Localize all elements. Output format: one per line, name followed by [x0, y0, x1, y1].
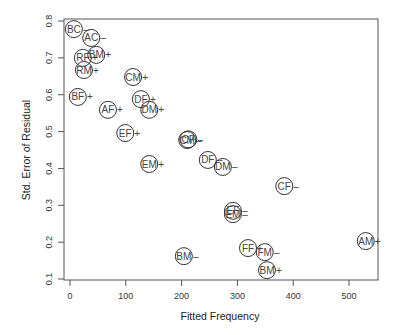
- data-point: BM–: [175, 248, 199, 265]
- data-point: DM–: [214, 158, 238, 175]
- point-sign: +: [158, 104, 164, 115]
- data-point: EF+: [117, 125, 141, 142]
- x-tick-label: 0: [67, 291, 72, 301]
- point-label: CM: [125, 72, 141, 83]
- data-point: FM–: [256, 244, 280, 261]
- y-tick-label: 0.3: [44, 199, 54, 212]
- y-tick-label: 0.8: [44, 15, 54, 28]
- point-sign: +: [158, 159, 164, 170]
- point-sign: +: [134, 128, 140, 139]
- data-point: DM+: [141, 101, 165, 118]
- y-tick-label: 0.6: [44, 88, 54, 101]
- point-label: BM: [259, 265, 274, 276]
- point-sign: +: [276, 265, 282, 276]
- point-label: DM: [141, 104, 157, 115]
- point-sign: +: [93, 65, 99, 76]
- data-point: BM+: [258, 262, 282, 279]
- data-point: AC–: [83, 29, 107, 46]
- point-label: CF: [278, 181, 291, 192]
- x-tick-label: 200: [174, 291, 189, 301]
- point-sign: –: [100, 32, 106, 43]
- x-tick-label: 300: [230, 291, 245, 301]
- y-tick-label: 0.4: [44, 162, 54, 175]
- x-axis: 0100200300400500: [67, 280, 356, 301]
- point-sign: +: [142, 72, 148, 83]
- y-tick-label: 0.7: [44, 52, 54, 65]
- point-label: BM: [176, 251, 191, 262]
- data-point: RM+: [75, 62, 99, 79]
- data-point: EM–: [224, 206, 248, 223]
- y-tick-label: 0.5: [44, 125, 54, 138]
- point-label: DF: [201, 154, 214, 165]
- data-point: AM+: [357, 233, 381, 250]
- scatter-chart: 0100200300400500 0.10.20.30.40.50.60.70.…: [0, 0, 399, 335]
- point-sign: –: [274, 247, 280, 258]
- point-label: EM: [225, 209, 240, 220]
- data-point: BF+: [69, 88, 93, 105]
- point-sign: +: [375, 236, 381, 247]
- y-tick-label: 0.1: [44, 273, 54, 286]
- point-label: AC: [84, 32, 98, 43]
- data-point: AF+: [99, 101, 123, 118]
- point-sign: –: [198, 134, 204, 145]
- point-label: FF: [242, 243, 254, 254]
- point-sign: +: [87, 91, 93, 102]
- y-axis-title: Std. Error of Residual: [20, 100, 32, 200]
- point-label: BC: [67, 24, 81, 35]
- point-sign: –: [193, 251, 199, 262]
- point-label: AF: [102, 104, 115, 115]
- point-label: DF: [134, 94, 147, 105]
- y-tick-label: 0.2: [44, 236, 54, 249]
- point-sign: –: [232, 161, 238, 172]
- point-label: RM: [76, 65, 92, 76]
- data-points: BC–AC–RF+BM+RM+CM+BF+AF+DF+DM+EF+EM+CM–C…: [65, 21, 380, 279]
- point-label: CF: [182, 134, 195, 145]
- x-tick-label: 400: [286, 291, 301, 301]
- point-label: BF: [71, 91, 84, 102]
- point-label: DM: [215, 161, 231, 172]
- x-tick-label: 500: [341, 291, 356, 301]
- y-axis: 0.10.20.30.40.50.60.70.8: [44, 15, 64, 286]
- x-tick-label: 100: [118, 291, 133, 301]
- data-point: EM+: [141, 156, 165, 173]
- point-label: AM: [358, 236, 373, 247]
- point-label: FM: [258, 247, 272, 258]
- point-label: EF: [119, 128, 132, 139]
- point-label: EM: [142, 159, 157, 170]
- x-axis-title: Fitted Frequency: [181, 310, 261, 322]
- point-sign: +: [105, 49, 111, 60]
- data-point: CM+: [125, 69, 149, 86]
- data-point: CF–: [276, 178, 300, 195]
- point-sign: +: [117, 104, 123, 115]
- point-sign: –: [293, 181, 299, 192]
- point-label: BM: [89, 49, 104, 60]
- point-sign: –: [242, 209, 248, 220]
